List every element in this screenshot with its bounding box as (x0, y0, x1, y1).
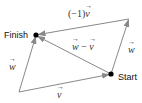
neg-v-prefix: (−1) (68, 8, 85, 19)
vector-w-left-arrow (19, 37, 36, 92)
w-left-label: w (9, 62, 16, 72)
start-label: Start (118, 73, 137, 82)
w-minus-v-label: w − v (72, 42, 94, 52)
neg-v-label: (−1)v (68, 9, 90, 19)
start-dot (108, 71, 113, 76)
diff-v-vector: v (89, 42, 93, 52)
right-w-vector: w (128, 45, 135, 55)
vector-v-arrow (19, 75, 109, 93)
bottom-v-vector: v (57, 90, 61, 100)
w-right-label: w (128, 45, 135, 55)
diff-w-vector: w (72, 42, 79, 52)
vector-w-right-arrow (111, 20, 129, 74)
diff-minus: − (79, 41, 90, 52)
finish-label: Finish (4, 31, 28, 40)
vector-subtraction-diagram: Finish Start (−1)v w − v w w v (0, 0, 142, 103)
vector-neg-v-arrow (39, 19, 130, 35)
left-w-vector: w (9, 62, 16, 72)
neg-v-vector: v (85, 9, 89, 19)
v-bottom-label: v (57, 90, 61, 100)
finish-dot (33, 32, 38, 37)
